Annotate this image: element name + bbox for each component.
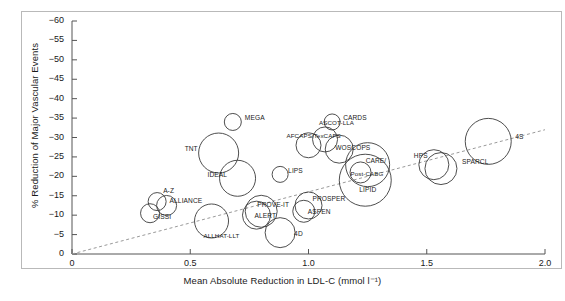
x-tick-label: 0 — [52, 258, 92, 268]
chart-page: 0−5−10−15−20−25−30−35−40−45−50−55−6000.5… — [0, 0, 565, 301]
bubble-label: ALLHAT-LLT — [204, 232, 240, 239]
bubble-label: PROSPER — [313, 195, 346, 202]
bubble-label: CARE/ — [366, 157, 387, 164]
x-tick-marks — [72, 249, 545, 254]
data-bubble[interactable] — [199, 133, 239, 173]
bubble-label: 4S — [515, 133, 523, 140]
data-bubble[interactable] — [272, 166, 288, 182]
bubble-label: IDEAL — [208, 171, 228, 178]
bubble-label: ASCOT-LLA — [319, 119, 354, 126]
y-tick-marks — [72, 21, 77, 254]
data-bubble[interactable] — [220, 160, 256, 196]
data-bubble[interactable] — [224, 113, 241, 130]
x-tick-label: 0.5 — [170, 258, 210, 268]
bubble-label: ALLIANCE — [170, 197, 203, 204]
bubble-label: ALERT — [254, 212, 276, 219]
bubble-label: ASPEN — [308, 208, 331, 215]
x-tick-label: 1.0 — [289, 258, 329, 268]
bubble-label: WOSCOPS — [335, 144, 370, 151]
bubble-label: AFCAPS/TexCAPS — [287, 132, 341, 139]
y-tick-label: 0 — [30, 248, 64, 258]
data-bubble[interactable] — [265, 218, 295, 248]
x-axis-title: Mean Absolute Reduction in LDL-C (mmol l… — [0, 275, 565, 286]
y-axis-title: % Reduction of Major Vascular Events — [29, 16, 40, 236]
bubble-label: LIPS — [288, 167, 303, 174]
bubble-label: A-Z — [163, 187, 174, 194]
x-tick-label: 1.5 — [407, 258, 447, 268]
bubble-label: LIPID — [359, 186, 376, 193]
bubble-chart-svg — [0, 0, 565, 301]
bubble-label: GISSI — [153, 213, 171, 220]
bubble-label: 4D — [294, 230, 303, 237]
bubble-label: MEGA — [245, 114, 265, 121]
bubble-label: SPARCL — [462, 158, 489, 165]
x-tick-label: 2.0 — [525, 258, 565, 268]
bubble-label: PROVE-IT — [257, 201, 289, 208]
bubble-label: TNT — [185, 145, 198, 152]
bubble-label: HPS — [414, 152, 428, 159]
bubble-label: Post-CABG — [351, 170, 384, 177]
